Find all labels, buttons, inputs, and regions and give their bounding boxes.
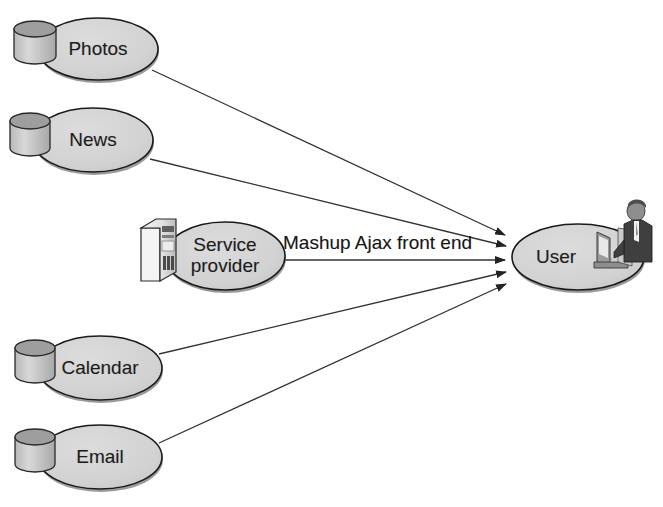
node-photos[interactable] [14,18,159,83]
database-cylinder-icon [14,21,56,64]
node-ellipse [33,108,153,172]
node-ellipse [165,222,285,290]
node-service-provider[interactable] [141,219,286,293]
database-cylinder-icon [15,340,55,383]
node-calendar[interactable] [15,336,163,403]
edge-line [152,70,505,235]
node-user[interactable] [512,199,652,293]
edge-label-mashup-ajax-front-end: Mashup Ajax front end [283,232,472,254]
server-tower-icon [141,219,176,281]
edge-photos-to-user [152,70,505,235]
node-email[interactable] [15,425,163,492]
edge-line [159,284,506,443]
node-ellipse [38,425,162,489]
database-cylinder-icon [15,429,55,472]
mashup-architecture-diagram: Photos News Service provider Calendar Em… [0,0,663,507]
node-ellipse [38,336,162,400]
edge-email-to-user [159,284,506,443]
database-cylinder-icon [10,113,50,156]
node-news[interactable] [10,108,154,175]
